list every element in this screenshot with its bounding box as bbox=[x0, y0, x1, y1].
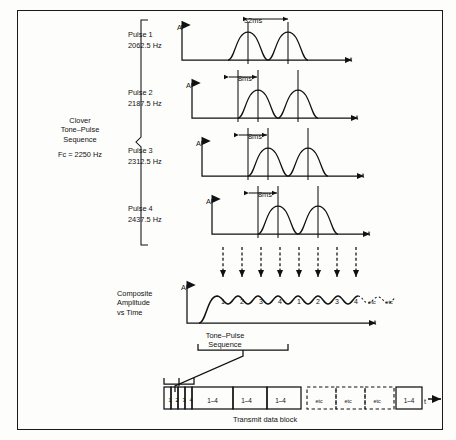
composite-waveform bbox=[187, 285, 396, 323]
sequence-bracket bbox=[164, 344, 288, 392]
datablock-rect-4 bbox=[185, 387, 192, 409]
datablock-rect-final bbox=[396, 387, 422, 409]
clover-tone-pulse-diagram: Clover Tone–Pulse Sequence Fc = 2250 Hz … bbox=[0, 0, 456, 440]
sampling-arrows bbox=[223, 247, 356, 277]
datablock-rect-dashed-3 bbox=[365, 387, 394, 409]
datablock-rect-dashed-1 bbox=[307, 387, 336, 409]
pulse-row-4 bbox=[212, 186, 370, 238]
datablock-rect-wide-3 bbox=[267, 387, 301, 409]
datablock-rect-3 bbox=[178, 387, 185, 409]
datablock-rect-wide-2 bbox=[233, 387, 267, 409]
datablock-rect-1 bbox=[164, 387, 171, 409]
group-brace bbox=[136, 20, 148, 245]
datablock-rect-wide-1 bbox=[192, 387, 233, 409]
pulse-row-2 bbox=[192, 70, 358, 122]
diagram-vectors bbox=[0, 0, 456, 440]
datablock-rect-dashed-2 bbox=[336, 387, 365, 409]
transmit-data-block bbox=[164, 387, 441, 409]
pulse-row-3 bbox=[202, 128, 364, 180]
pulse-row-1 bbox=[182, 19, 352, 64]
